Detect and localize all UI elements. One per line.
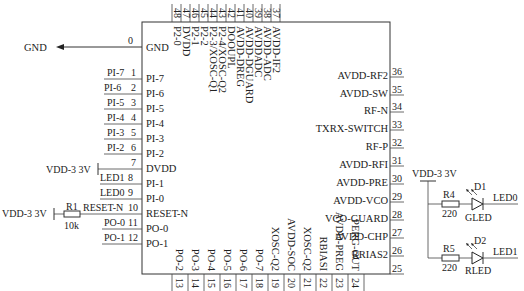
pin-name: RF-P <box>366 141 388 152</box>
pin-num: 23 <box>334 278 345 288</box>
d2-net-label: LED1 <box>493 246 517 257</box>
pin-name: PI-6 <box>146 88 164 99</box>
r5-value: 220 <box>442 262 457 273</box>
bottom-pins: 13 14 15 16 17 18 19 20 21 22 23 24 PO-2… <box>172 212 364 291</box>
pin-name: TXRX-SWITCH <box>316 123 389 134</box>
pin-name: AVDD-VCO <box>333 195 388 206</box>
pin-num: 4 <box>131 112 136 123</box>
pin-num: 33 <box>392 119 402 130</box>
pin-num: 17 <box>238 278 249 288</box>
pin-num: 31 <box>392 155 402 166</box>
pin-num: 9 <box>128 187 133 198</box>
pin-name: PI-3 <box>146 133 164 144</box>
pin-num: 14 <box>190 278 201 288</box>
pin-name: XOSC-Q2 <box>270 227 281 271</box>
pin-num: 6 <box>131 142 136 153</box>
pin-num: 5 <box>131 127 136 138</box>
d2-type: RLED <box>465 265 491 276</box>
pin-num: 26 <box>392 245 402 256</box>
led-circuit: VDD-3 3V R4 220 D1 GLED LED0 R5 220 <box>412 168 518 276</box>
d1-type: GLED <box>465 212 492 223</box>
pin-name: PO-0 <box>146 223 168 234</box>
resistor-r5-icon <box>442 255 459 261</box>
d1-net-label: LED0 <box>493 192 517 203</box>
pin-name: PI-1 <box>146 178 164 189</box>
pin-name: PO-7 <box>254 249 265 271</box>
pin-name: AVDD-SOC <box>286 218 297 271</box>
pin-name: PI-5 <box>146 103 164 114</box>
pin-name: PI-2 <box>146 148 164 159</box>
pin-name: RESET-N <box>146 208 189 219</box>
pin-num: 25 <box>392 263 402 274</box>
top-pins: 48 47 46 45 44 43 42 41 40 39 38 37 P2-0… <box>172 4 282 104</box>
pin-name: RBIASI <box>318 237 329 272</box>
pin-name: PERG-OUT <box>350 219 361 272</box>
pin-name: PI-0 <box>146 193 164 204</box>
pin-num: 35 <box>392 84 402 95</box>
r1-value: 10k <box>64 220 79 231</box>
pin-num: 32 <box>392 137 402 148</box>
pin-num: 27 <box>392 227 402 238</box>
pin-name: PO-6 <box>238 249 249 271</box>
pin-num: 8 <box>128 172 133 183</box>
pin-name: AVDD-SW <box>340 88 388 99</box>
resistor-r4-icon <box>442 201 459 207</box>
pin-net: PI-7 <box>107 67 124 78</box>
pin-num: 3 <box>131 97 136 108</box>
pin-num: 28 <box>392 209 402 220</box>
gnd-arrow-icon <box>56 44 64 50</box>
pin-num: 19 <box>270 278 281 288</box>
led-vdd-label: VDD-3 3V <box>412 168 457 179</box>
led-d1-icon <box>466 189 483 210</box>
pin-num: 0 <box>128 35 133 46</box>
pin-name: PO-3 <box>190 249 201 271</box>
pin-name: PO-4 <box>206 249 217 272</box>
pin-net: PI-5 <box>107 97 124 108</box>
pin-num: 10 <box>128 202 138 213</box>
pin-net: RESET-N <box>83 202 123 213</box>
pin-num: 12 <box>128 232 138 243</box>
pin-num: 13 <box>174 278 185 288</box>
pin-num: 2 <box>131 82 136 93</box>
r4-ref: R4 <box>443 189 455 200</box>
pin-net: PO-0 <box>104 217 125 228</box>
r1-ref: R1 <box>66 201 78 212</box>
pin-num: 20 <box>286 278 297 288</box>
pin-num: 37 <box>271 8 282 18</box>
pin-net: LED1 <box>100 172 124 183</box>
pin-name: DVDD <box>146 163 177 174</box>
pin-num: 11 <box>128 217 138 228</box>
pin-net: PI-3 <box>107 127 124 138</box>
pin-name: AVDD-PRE <box>336 177 388 188</box>
pin-name: GND <box>146 42 169 53</box>
pin-name: RF-N <box>364 105 388 116</box>
pin-name: AVDD-RF2 <box>337 70 388 81</box>
pin-num: 18 <box>254 278 265 288</box>
pin-name: AVDD-IF2 <box>271 26 282 73</box>
pin-name: PO-1 <box>146 238 168 249</box>
pin-num: 7 <box>131 157 136 168</box>
pin-num: 29 <box>392 191 402 202</box>
pin-name: AVDD-RFI <box>339 159 388 170</box>
pin-name: XOSC-Q2 <box>302 227 313 271</box>
vdd-net-label: VDD-3 3V <box>2 208 47 219</box>
pin-name: AVDD-PREG <box>334 212 345 272</box>
r4-value: 220 <box>442 208 457 219</box>
led-d2-icon <box>466 243 483 264</box>
left-pins: GND 0 GND PI-7 1 PI-7 PI-6 2 PI-6 PI-5 3… <box>2 35 189 249</box>
pin-name: PO-5 <box>222 249 233 271</box>
pin-name: PO-2 <box>174 249 185 271</box>
d2-ref: D2 <box>474 235 486 246</box>
pin-net: PI-4 <box>107 112 124 123</box>
pin-num: 30 <box>392 173 402 184</box>
pin-net: LED0 <box>100 187 124 198</box>
d1-ref: D1 <box>474 181 486 192</box>
pin-net: PI-6 <box>104 82 121 93</box>
pin-num: 21 <box>302 278 313 288</box>
vdd-net-label: VDD-3 3V <box>46 164 91 175</box>
r5-ref: R5 <box>443 243 455 254</box>
schematic-canvas: GND 0 GND PI-7 1 PI-7 PI-6 2 PI-6 PI-5 3… <box>0 0 524 291</box>
pin-net: PI-2 <box>107 142 124 153</box>
pin-name: PI-4 <box>146 118 165 129</box>
pin-num: 16 <box>222 278 233 288</box>
